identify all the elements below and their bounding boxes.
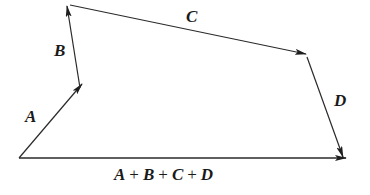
plus-sign: +	[187, 165, 197, 184]
sum-term-c: C	[172, 165, 183, 184]
vector-addition-diagram: A B C D A+B+C+D	[0, 0, 370, 195]
vector-b-arrow	[67, 6, 80, 88]
sum-term-d: D	[201, 165, 213, 184]
label-d: D	[334, 92, 346, 109]
label-b: B	[54, 42, 65, 59]
label-a: A	[25, 108, 36, 125]
plus-sign: +	[129, 165, 139, 184]
label-c: C	[186, 8, 197, 25]
plus-sign: +	[158, 165, 168, 184]
sum-term-b: B	[143, 165, 154, 184]
resultant-label: A+B+C+D	[114, 166, 213, 183]
sum-term-a: A	[114, 165, 125, 184]
